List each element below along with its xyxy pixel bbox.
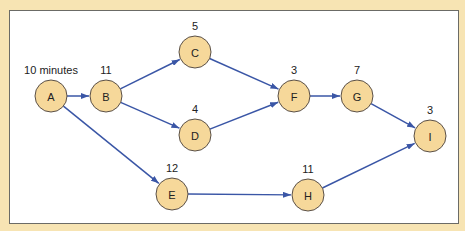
node-label: C xyxy=(191,47,199,59)
node-duration: 3 xyxy=(427,104,433,116)
node-label: G xyxy=(353,91,362,103)
node-duration: 5 xyxy=(192,20,198,32)
node-label: I xyxy=(428,131,431,143)
edge-g-i xyxy=(371,104,415,128)
edge-e-h xyxy=(188,194,291,195)
node-duration: 12 xyxy=(166,162,178,174)
node-a: A10 minutes xyxy=(24,64,78,112)
node-i: I3 xyxy=(414,104,446,152)
activity-network: A10 minutesB11C5D4E12F3G7H11I3 xyxy=(0,0,465,231)
node-d: D4 xyxy=(179,103,211,151)
node-g: G7 xyxy=(341,64,373,112)
node-label: D xyxy=(191,130,199,142)
node-e: E12 xyxy=(156,162,188,210)
edge-b-d xyxy=(121,102,180,128)
edge-d-f xyxy=(210,102,278,129)
node-label: B xyxy=(102,91,109,103)
node-f: F3 xyxy=(278,64,310,112)
node-duration: 3 xyxy=(291,64,297,76)
node-label: E xyxy=(168,189,175,201)
nodes-group: A10 minutesB11C5D4E12F3G7H11I3 xyxy=(24,20,446,211)
node-duration: 11 xyxy=(302,163,313,175)
edge-a-e xyxy=(63,106,158,183)
node-c: C5 xyxy=(179,20,211,68)
node-label: A xyxy=(47,91,55,103)
edges-group xyxy=(63,58,415,194)
node-label: H xyxy=(304,190,312,202)
edge-h-i xyxy=(322,143,414,188)
node-duration: 11 xyxy=(100,64,111,76)
edge-b-c xyxy=(120,60,179,89)
node-b: B11 xyxy=(90,64,122,112)
edge-c-f xyxy=(210,58,279,89)
node-label: F xyxy=(291,91,298,103)
node-duration: 7 xyxy=(354,64,360,76)
node-duration: 4 xyxy=(192,103,198,115)
node-duration: 10 minutes xyxy=(24,64,78,76)
node-h: H11 xyxy=(292,163,324,211)
